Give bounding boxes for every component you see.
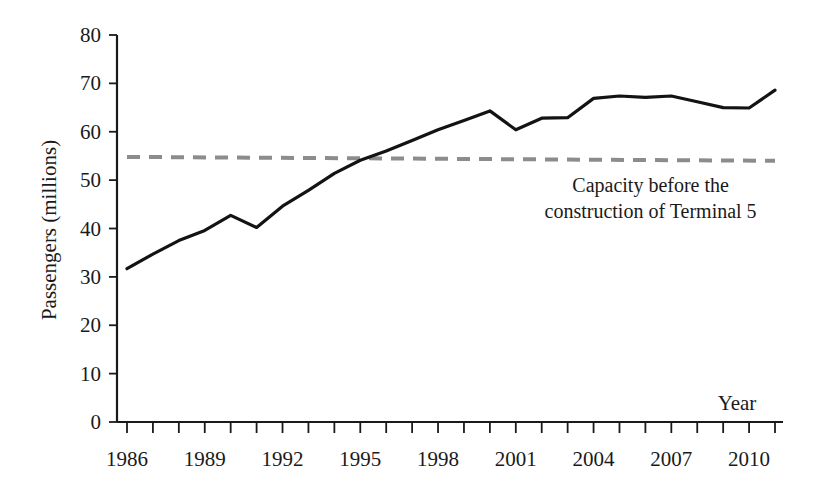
capacity-annotation-line1: Capacity before the: [572, 174, 729, 197]
y-tick-label: 70: [80, 71, 101, 95]
x-tick-label: 1992: [262, 447, 304, 471]
capacity-annotation-line2: construction of Terminal 5: [545, 200, 757, 222]
x-axis-title: Year: [718, 391, 757, 415]
x-tick-label: 1989: [184, 447, 226, 471]
y-tick-label: 50: [80, 168, 101, 192]
y-axis-tick-labels: 01020304050607080: [80, 23, 101, 434]
y-tick-label: 0: [91, 410, 102, 434]
x-tick-label: 1995: [339, 447, 381, 471]
y-tick-label: 30: [80, 265, 101, 289]
y-axis-title: Passengers (millions): [37, 140, 61, 320]
y-tick-label: 10: [80, 362, 101, 386]
chart-page: 01020304050607080 1986198919921995199820…: [0, 0, 818, 487]
y-tick-label: 60: [80, 120, 101, 144]
x-tick-label: 1986: [106, 447, 148, 471]
x-tick-label: 2010: [728, 447, 770, 471]
y-tick-label: 20: [80, 313, 101, 337]
x-tick-label: 2007: [650, 447, 692, 471]
x-axis-tick-labels: 198619891992199519982001200420072010: [106, 447, 770, 471]
y-tick-label: 40: [80, 217, 101, 241]
x-tick-label: 2004: [573, 447, 616, 471]
chart-background: [0, 0, 818, 487]
passenger-line-chart: 01020304050607080 1986198919921995199820…: [0, 0, 818, 487]
x-tick-label: 1998: [417, 447, 459, 471]
x-tick-label: 2001: [495, 447, 537, 471]
y-tick-label: 80: [80, 23, 101, 47]
